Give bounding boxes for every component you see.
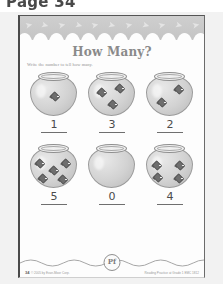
wavy-divider-icon: Pf xyxy=(20,254,204,270)
fish-icon: ➤ xyxy=(74,19,84,31)
fishbowl-icon xyxy=(87,143,137,188)
exercise-item: 5 xyxy=(27,143,82,205)
answer-blank[interactable]: 4 xyxy=(157,190,183,205)
fish-icon: ➤ xyxy=(141,19,151,31)
exercise-item: 2 xyxy=(143,71,198,133)
answer-blank[interactable]: 1 xyxy=(41,118,67,133)
fish-icon xyxy=(37,175,48,182)
fish-icon xyxy=(48,167,59,174)
header-motif-row: ➤ ➤ ➤ ➤ ➤ ➤ ➤ ➤ ➤ ➤ ➤ xyxy=(20,17,204,33)
answer-blank[interactable]: 0 xyxy=(99,190,125,205)
fish-icon xyxy=(151,162,162,169)
fish-icon xyxy=(173,175,184,182)
fishbowl-icon xyxy=(145,71,195,116)
page-number: 34 xyxy=(25,270,29,275)
exercise-item: 0 xyxy=(85,143,140,205)
fishbowl-icon xyxy=(87,71,137,116)
series-note: Reading Practice at Grade 1 EMC 1812 xyxy=(144,271,199,275)
fish-icon xyxy=(114,85,125,92)
footer-fineprint: 34 © 2005 by Evan-Moor Corp. Reading Pra… xyxy=(20,270,204,277)
scanned-page-area: Page 34 ➤ ➤ ➤ ➤ ➤ ➤ ➤ ➤ ➤ ➤ ➤ How Many? … xyxy=(0,0,223,284)
fish-icon: ➤ xyxy=(174,19,184,31)
exercise-row: 5 0 xyxy=(20,143,204,205)
fish-icon: ➤ xyxy=(191,19,200,30)
fish-icon xyxy=(173,86,184,93)
answer-blank[interactable]: 5 xyxy=(41,190,67,205)
fish-icon: ➤ xyxy=(90,19,99,30)
fish-icon xyxy=(60,160,71,167)
publisher-badge-icon: Pf xyxy=(104,254,121,271)
fish-icon: ➤ xyxy=(157,19,166,30)
fishbowl-icon xyxy=(29,71,79,116)
answer-blank[interactable]: 3 xyxy=(99,118,125,133)
fish-icon xyxy=(49,93,60,100)
fish-icon: ➤ xyxy=(107,19,117,31)
answer-blank[interactable]: 2 xyxy=(157,118,183,133)
fish-icon: ➤ xyxy=(124,19,133,30)
fish-icon: ➤ xyxy=(24,19,33,30)
fishbowl-icon xyxy=(29,143,79,188)
fish-icon xyxy=(107,101,118,108)
fish-icon xyxy=(156,99,167,106)
scalloped-edge xyxy=(20,33,204,40)
fishbowl-icon xyxy=(145,143,195,188)
fish-icon: ➤ xyxy=(57,19,66,30)
fish-icon xyxy=(174,162,185,169)
fish-icon xyxy=(152,174,163,181)
page-label: Page 34 xyxy=(6,0,76,11)
worksheet-footer: Pf 34 © 2005 by Evan-Moor Corp. Reading … xyxy=(20,254,204,277)
fish-icon xyxy=(57,176,68,183)
copyright-text: © 2005 by Evan-Moor Corp. xyxy=(31,271,70,275)
exercise-item: 4 xyxy=(143,143,198,205)
worksheet-sheet: ➤ ➤ ➤ ➤ ➤ ➤ ➤ ➤ ➤ ➤ ➤ How Many? Write th… xyxy=(18,15,205,278)
exercise-item: 3 xyxy=(85,71,140,133)
fish-icon xyxy=(96,89,107,96)
decorative-header-band: ➤ ➤ ➤ ➤ ➤ ➤ ➤ ➤ ➤ ➤ ➤ xyxy=(20,16,204,40)
page-title: How Many? xyxy=(20,45,204,59)
exercise-item: 1 xyxy=(27,71,82,133)
fish-icon xyxy=(34,160,45,167)
exercise-row: 1 3 xyxy=(20,71,204,133)
instruction-text: Write the number to tell how many. xyxy=(27,62,204,67)
fish-icon: ➤ xyxy=(40,19,50,31)
